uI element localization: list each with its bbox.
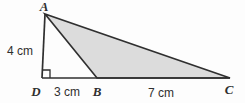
vertex-label-b: B [92, 84, 102, 99]
right-angle-marker [42, 70, 50, 78]
vertex-label-d: D [30, 84, 41, 99]
shaded-triangle-abc [45, 14, 230, 78]
measure-label-ad: 4 cm [7, 44, 33, 58]
measure-label-bc: 7 cm [148, 86, 174, 100]
geometry-figure: A D B C 4 cm 3 cm 7 cm [0, 0, 245, 103]
triangle-diagram-svg: A D B C 4 cm 3 cm 7 cm [0, 0, 245, 103]
vertex-label-a: A [39, 0, 49, 14]
segment-ad [42, 14, 45, 78]
vertex-label-c: C [225, 82, 234, 97]
measure-label-db: 3 cm [54, 85, 80, 99]
